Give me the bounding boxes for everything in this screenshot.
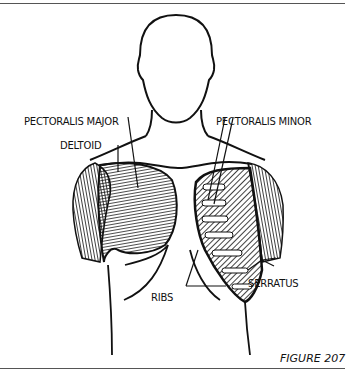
label-serratus: SERRATUS xyxy=(248,278,298,289)
figure-caption: FIGURE 207 xyxy=(280,352,345,365)
bottom-rule xyxy=(0,368,345,369)
head-outline xyxy=(90,15,265,168)
label-pectoralis-major: PECTORALIS MAJOR xyxy=(24,116,119,127)
anatomy-illustration xyxy=(0,0,351,375)
label-deltoid: DELTOID xyxy=(60,140,101,151)
label-pectoralis-minor: PECTORALIS MINOR xyxy=(216,116,311,127)
label-ribs: RIBS xyxy=(151,292,173,303)
